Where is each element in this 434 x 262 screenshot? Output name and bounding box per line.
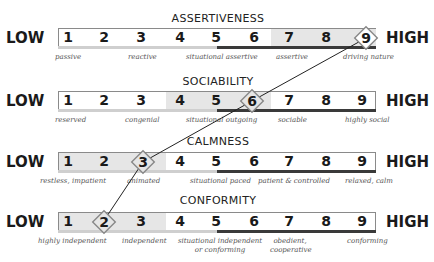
marker-value: 3 <box>138 154 148 170</box>
marker-value: 6 <box>247 93 257 109</box>
marker-value: 2 <box>99 214 109 230</box>
marker-value: 9 <box>361 30 371 46</box>
profile-connector: 9 6 3 2 <box>0 0 434 262</box>
